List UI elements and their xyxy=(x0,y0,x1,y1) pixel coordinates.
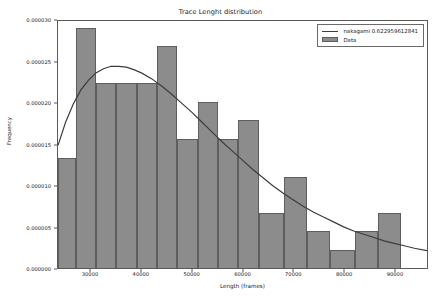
y-tick-label: 0.000010 xyxy=(26,183,51,189)
chart-legend[interactable]: nakagami 0.622959612841 Data xyxy=(317,24,424,47)
x-tick-label: 30000 xyxy=(82,271,99,277)
nakagami-fit-curve xyxy=(58,21,427,268)
figure-canvas: Trace Lenght distribution Frequency 0.00… xyxy=(0,0,441,303)
patch-swatch-icon xyxy=(322,37,338,42)
x-axis-title: Length (frames) xyxy=(57,283,428,289)
y-tick-label: 0.000025 xyxy=(26,59,51,65)
fit-curve-path xyxy=(58,66,427,250)
plot-inner xyxy=(58,21,427,268)
legend-label-nakagami: nakagami 0.622959612841 xyxy=(343,28,418,34)
y-tick-label: 0.000000 xyxy=(26,266,51,272)
x-tick-label: 50000 xyxy=(183,271,200,277)
line-swatch-icon xyxy=(322,31,338,32)
plot-area: nakagami 0.622959612841 Data xyxy=(57,20,428,269)
legend-item-data[interactable]: Data xyxy=(322,37,418,43)
y-tick-label: 0.000005 xyxy=(26,225,51,231)
y-axis-tick-labels: 0.0000000.0000050.0000100.0000150.000020… xyxy=(0,20,55,269)
y-tick-label: 0.000020 xyxy=(26,100,51,106)
legend-label-data: Data xyxy=(343,37,356,43)
page-title: Trace Lenght distribution xyxy=(0,8,441,16)
x-tick-label: 90000 xyxy=(387,271,404,277)
x-tick-label: 40000 xyxy=(133,271,150,277)
x-tick-label: 80000 xyxy=(336,271,353,277)
x-tick-label: 60000 xyxy=(234,271,251,277)
x-tick-label: 70000 xyxy=(285,271,302,277)
y-tick-label: 0.000030 xyxy=(26,17,51,23)
y-tick-label: 0.000015 xyxy=(26,142,51,148)
x-axis-tick-labels: 30000400005000060000700008000090000 xyxy=(57,271,428,283)
legend-item-nakagami[interactable]: nakagami 0.622959612841 xyxy=(322,28,418,34)
